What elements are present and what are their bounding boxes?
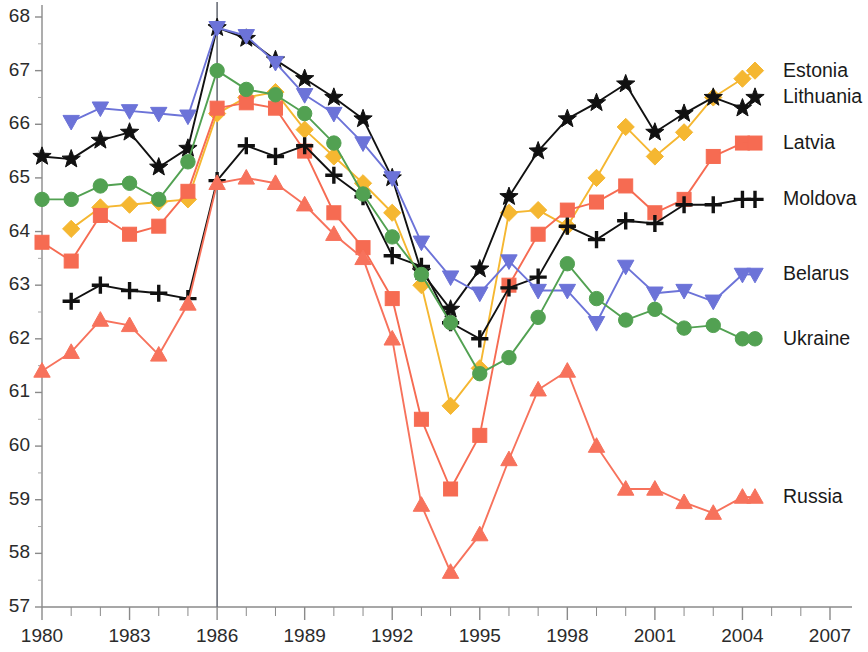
marker-circle xyxy=(560,257,574,271)
series-line xyxy=(71,28,742,323)
x-tick-label: 2007 xyxy=(804,625,856,647)
marker-square xyxy=(444,482,458,496)
legend-label-estonia: Estonia xyxy=(783,59,848,82)
legend-label-russia: Russia xyxy=(783,485,843,508)
y-tick-label: 67 xyxy=(0,59,30,81)
legend-label-belarus: Belarus xyxy=(783,262,849,285)
marker-triangle-up xyxy=(501,451,517,466)
marker-square xyxy=(123,227,137,241)
marker-plus xyxy=(150,285,167,302)
marker-plus xyxy=(63,293,80,310)
marker-square xyxy=(619,179,633,193)
marker-triangle-up xyxy=(34,363,50,378)
marker-triangle-up xyxy=(472,526,488,541)
x-tick-label: 2001 xyxy=(629,625,681,647)
marker-square xyxy=(560,203,574,217)
x-tick-label: 1986 xyxy=(191,625,243,647)
marker-circle xyxy=(619,313,633,327)
marker-triangle-up xyxy=(559,363,575,378)
marker-circle xyxy=(152,192,166,206)
y-tick-label: 68 xyxy=(0,5,30,27)
marker-star xyxy=(646,123,664,140)
marker-square xyxy=(64,254,78,268)
y-tick-label: 58 xyxy=(0,541,30,563)
marker-diamond xyxy=(530,201,547,218)
y-tick-label: 59 xyxy=(0,488,30,510)
marker-circle xyxy=(748,332,762,346)
marker-triangle-down xyxy=(296,89,312,104)
marker-triangle-up xyxy=(413,497,429,512)
marker-star xyxy=(558,109,576,126)
marker-circle xyxy=(414,267,428,281)
marker-triangle-down xyxy=(588,317,604,332)
marker-star xyxy=(500,187,518,204)
marker-circle xyxy=(589,291,603,305)
marker-square xyxy=(414,412,428,426)
marker-square xyxy=(35,235,49,249)
marker-circle xyxy=(64,192,78,206)
marker-triangle-up xyxy=(747,489,763,504)
marker-square xyxy=(93,208,107,222)
series-moldova xyxy=(63,137,751,347)
marker-diamond xyxy=(442,397,459,414)
marker-square xyxy=(531,227,545,241)
marker-triangle-down xyxy=(442,271,458,286)
marker-triangle-up xyxy=(238,170,254,185)
marker-star xyxy=(471,259,489,276)
chart-root: 575859606162636465666768 198019831986198… xyxy=(0,0,868,652)
series-latvia xyxy=(35,96,749,496)
marker-star xyxy=(354,109,372,126)
legend-label-moldova: Moldova xyxy=(783,187,857,210)
marker-circle xyxy=(531,310,545,324)
marker-triangle-up xyxy=(384,330,400,345)
x-tick-label: 1989 xyxy=(279,625,331,647)
y-tick-label: 63 xyxy=(0,273,30,295)
marker-triangle-up xyxy=(618,481,634,496)
marker-star xyxy=(587,93,605,110)
marker-circle xyxy=(327,136,341,150)
marker-triangle-up xyxy=(296,196,312,211)
marker-plus xyxy=(559,218,576,235)
y-tick-label: 65 xyxy=(0,166,30,188)
marker-square xyxy=(239,96,253,110)
marker-circle xyxy=(122,176,136,190)
marker-triangle-down xyxy=(530,284,546,299)
marker-circle xyxy=(385,230,399,244)
legend-label-lithuania: Lithuania xyxy=(783,85,862,108)
marker-square xyxy=(327,206,341,220)
legend-label-ukraine: Ukraine xyxy=(783,327,850,350)
marker-square xyxy=(748,136,762,150)
marker-square xyxy=(210,101,224,115)
marker-circle xyxy=(648,302,662,316)
legend-label-latvia: Latvia xyxy=(783,131,835,154)
marker-square xyxy=(152,219,166,233)
series-belarus xyxy=(63,22,751,332)
y-tick-label: 57 xyxy=(0,595,30,617)
marker-plus xyxy=(121,282,138,299)
marker-circle xyxy=(356,187,370,201)
marker-circle xyxy=(677,321,691,335)
marker-circle xyxy=(210,63,224,77)
marker-triangle-up xyxy=(530,381,546,396)
series-line xyxy=(71,146,742,339)
legend-connector-estonia xyxy=(742,62,763,79)
x-tick-label: 1983 xyxy=(104,625,156,647)
y-tick-label: 64 xyxy=(0,220,30,242)
x-tick-label: 2004 xyxy=(716,625,768,647)
marker-square xyxy=(181,184,195,198)
y-tick-label: 66 xyxy=(0,112,30,134)
marker-plus xyxy=(267,148,284,165)
marker-triangle-up xyxy=(92,312,108,327)
marker-circle xyxy=(239,82,253,96)
marker-triangle-up xyxy=(676,494,692,509)
x-tick-label: 1992 xyxy=(366,625,418,647)
marker-circle xyxy=(473,366,487,380)
marker-circle xyxy=(297,106,311,120)
marker-square xyxy=(590,195,604,209)
marker-triangle-up xyxy=(588,438,604,453)
marker-circle xyxy=(93,179,107,193)
marker-plus xyxy=(705,196,722,213)
x-tick-label: 1995 xyxy=(454,625,506,647)
marker-diamond xyxy=(588,169,605,186)
y-tick-label: 61 xyxy=(0,380,30,402)
